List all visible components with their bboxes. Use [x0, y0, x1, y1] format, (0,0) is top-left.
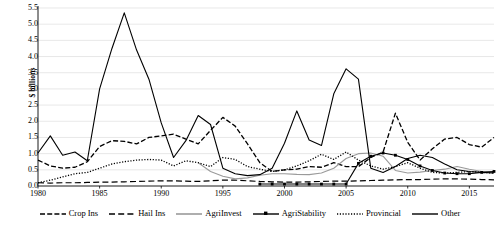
series-marker: [271, 183, 274, 186]
legend-label: Provincial: [366, 209, 401, 218]
legend-item-other[interactable]: Other: [412, 209, 460, 218]
legend-swatch-icon: [253, 209, 279, 218]
legend-item-provincial[interactable]: Provincial: [337, 209, 401, 218]
series-marker: [258, 183, 261, 186]
legend-item-crop-ins[interactable]: Crop Ins: [40, 209, 99, 218]
chart-container: $ billions 0.00.51.01.52.02.53.03.54.04.…: [0, 0, 500, 225]
legend-swatch-icon: [412, 209, 438, 218]
legend-item-hail-ins[interactable]: Hail Ins: [109, 209, 165, 218]
legend-label: Crop Ins: [69, 209, 99, 218]
chart-legend: Crop InsHail InsAgriInvestAgriStabilityP…: [0, 205, 500, 221]
series-line-hail-ins: [38, 179, 494, 183]
series-marker: [320, 183, 323, 186]
legend-label: Other: [441, 209, 460, 218]
series-marker: [394, 154, 397, 157]
legend-item-agriinvest[interactable]: AgriInvest: [176, 209, 241, 218]
series-marker: [419, 165, 422, 168]
legend-swatch-icon: [109, 209, 135, 218]
series-line-agristability: [260, 153, 494, 184]
series-marker: [283, 183, 286, 186]
legend-label: Hail Ins: [138, 209, 165, 218]
legend-swatch-icon: [337, 209, 363, 218]
series-line-crop-ins: [38, 113, 494, 171]
plot-area: [0, 0, 500, 225]
series-marker: [332, 183, 335, 186]
series-line-other: [38, 13, 494, 176]
series-marker: [308, 183, 311, 186]
series-marker: [357, 162, 360, 165]
series-marker: [468, 172, 471, 175]
series-marker: [345, 183, 348, 186]
legend-item-agristability[interactable]: AgriStability: [253, 209, 326, 218]
legend-label: AgriStability: [282, 209, 326, 218]
series-marker: [295, 183, 298, 186]
legend-label: AgriInvest: [205, 209, 241, 218]
legend-swatch-icon: [176, 209, 202, 218]
series-marker: [382, 152, 385, 155]
legend-swatch-icon: [40, 209, 66, 218]
